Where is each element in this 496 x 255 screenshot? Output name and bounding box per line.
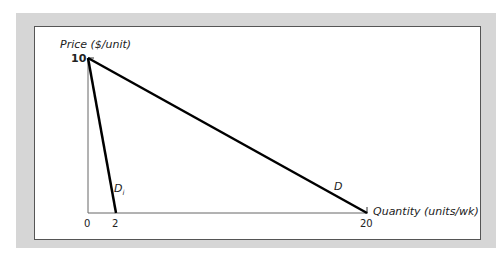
curve-D [88,58,367,213]
x-tick-label-2: 2 [112,218,118,229]
curve-Di-subscript: i [122,189,124,197]
curve-D-label: D [334,180,342,193]
y-axis-label: Price ($/unit) [60,38,131,51]
curve-Di [88,58,116,213]
demand-chart: Price ($/unit) 10 0 2 20 Quantity (units… [0,0,496,255]
x-axis-label: Quantity (units/wk) [373,205,479,218]
y-tick-label-10: 10 [71,52,87,65]
x-tick-label-20: 20 [360,218,373,229]
curve-Di-label: Di [114,182,124,197]
x-tick-label-0: 0 [84,218,90,229]
